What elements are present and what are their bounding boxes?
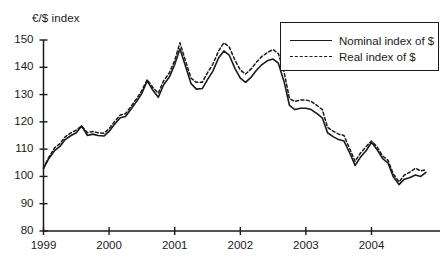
x-tick-2002: 2002 <box>220 240 260 252</box>
x-tick-1999: 1999 <box>24 240 64 252</box>
legend-label-real: Real index of $ <box>339 51 416 63</box>
y-tick-140: 140 <box>8 61 34 73</box>
legend-item-real: Real index of $ <box>290 49 416 65</box>
y-tick-90: 90 <box>8 198 34 210</box>
y-tick-110: 110 <box>8 143 34 155</box>
legend-line-solid-icon <box>290 36 332 46</box>
legend-line-dashed-icon <box>290 52 332 62</box>
y-tick-80: 80 <box>8 225 34 237</box>
chart-container: €/$ index 8090100110120130140150 1999200… <box>0 0 447 266</box>
x-tick-2001: 2001 <box>155 240 195 252</box>
x-tick-2000: 2000 <box>89 240 129 252</box>
legend-item-nominal: Nominal index of $ <box>290 33 434 49</box>
y-tick-130: 130 <box>8 89 34 101</box>
legend-label-nominal: Nominal index of $ <box>339 35 434 47</box>
y-tick-100: 100 <box>8 170 34 182</box>
x-tick-2003: 2003 <box>286 240 326 252</box>
x-tick-2004: 2004 <box>352 240 392 252</box>
y-tick-150: 150 <box>8 34 34 46</box>
chart-legend: Nominal index of $ Real index of $ <box>280 22 439 71</box>
y-tick-120: 120 <box>8 116 34 128</box>
